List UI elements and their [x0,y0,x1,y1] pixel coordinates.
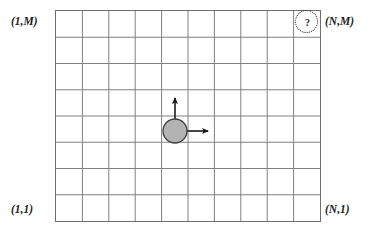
corner-label-top-left: (1,M) [11,15,38,27]
goal-marker: ? [294,9,321,36]
goal-question-mark: ? [294,9,321,36]
corner-label-bottom-right: (N,1) [325,203,350,215]
corner-label-top-right: (N,M) [325,15,354,27]
grid-area [55,10,321,222]
corner-label-bottom-left: (1,1) [11,203,33,215]
grid-world-figure: (1,M) (N,M) (1,1) (N,1) ? [0,0,375,239]
grid-lines [56,11,320,221]
